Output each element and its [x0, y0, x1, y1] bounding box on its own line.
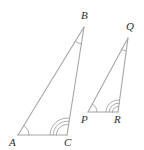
vertex-label-q: Q	[126, 21, 134, 32]
vertex-label-r: R	[114, 114, 121, 125]
edge-qr	[118, 38, 128, 112]
vertex-label-a: A	[9, 137, 16, 148]
angle-mark-r	[106, 100, 120, 112]
triangle-pqr	[88, 38, 128, 112]
angle-mark-q	[122, 49, 126, 50]
geometry-figure: ABCPQR	[0, 0, 144, 150]
angle-arc	[92, 104, 97, 112]
angle-arc	[53, 121, 69, 135]
angle-arc	[122, 49, 126, 50]
vertex-label-p: P	[81, 114, 88, 125]
angle-arc	[75, 42, 81, 44]
angle-arc	[24, 126, 29, 135]
angle-mark-c	[50, 118, 70, 135]
angle-mark-b	[75, 42, 81, 44]
vertex-label-c: C	[64, 137, 71, 148]
triangle-abc	[18, 27, 84, 135]
vertex-label-b: B	[81, 10, 88, 21]
angle-mark-p	[92, 104, 97, 112]
edge-ab	[18, 27, 84, 135]
triangles-diagram	[0, 0, 144, 150]
angle-mark-a	[24, 126, 29, 135]
